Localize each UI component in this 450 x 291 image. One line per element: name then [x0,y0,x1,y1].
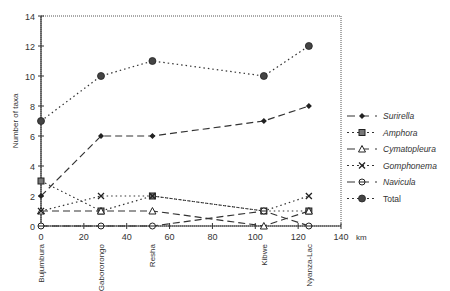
y-tick-label: 0 [30,222,35,232]
legend: SurirellaAmphoraCymatopleuraGomphonemaNa… [347,111,437,204]
x-axis-label: km [356,233,367,242]
site-label: Nyanza-Lac [305,244,314,287]
y-tick-label: 2 [30,192,35,202]
x-tick-label: 80 [207,232,217,242]
legend-item-surirella: Surirella [347,111,414,121]
plot-frame [41,16,341,226]
legend-item-amphora: Amphora [347,128,418,138]
y-tick-label: 12 [25,42,35,52]
x-tick-label: 100 [248,232,263,242]
legend-item-total: Total [347,194,401,204]
y-tick-label: 8 [30,102,35,112]
legend-label: Total [383,194,401,204]
y-tick-label: 10 [25,72,35,82]
legend-label: Navicula [383,177,416,187]
legend-label: Gomphonema [383,161,437,171]
line-chart: 02468101214020406080100120140kmNumber of… [0,0,450,291]
legend-label: Amphora [382,128,418,138]
legend-label: Cymatopleura [383,144,436,154]
site-label: Gabororongo [97,243,106,291]
site-label: Bujumbura [37,243,46,282]
y-tick-label: 6 [30,132,35,142]
series-lines [38,43,313,230]
site-label: Resha [148,243,157,267]
series-amphora [38,178,312,214]
axes: 02468101214020406080100120140kmNumber of… [11,12,367,291]
x-tick-label: 20 [79,232,89,242]
x-tick-label: 120 [291,232,306,242]
y-axis-label: Number of taxa [11,93,20,148]
x-tick-label: 40 [122,232,132,242]
x-tick-label: 0 [38,232,43,242]
y-tick-label: 14 [25,12,35,22]
legend-item-gomphonema: Gomphonema [347,161,437,171]
legend-item-navicula: Navicula [347,177,416,187]
site-label: Kibwe [260,243,269,265]
x-tick-label: 60 [165,232,175,242]
series-surirella [38,103,312,199]
legend-item-cymatopleura: Cymatopleura [347,144,436,154]
y-tick-label: 4 [30,162,35,172]
x-tick-label: 140 [333,232,348,242]
series-total [38,43,313,125]
legend-label: Surirella [383,111,414,121]
